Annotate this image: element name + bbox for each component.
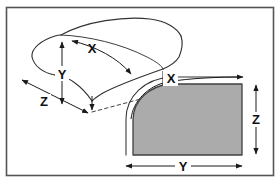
diagram-container: X Y Z X Z Y [0,0,280,182]
flattened-panel-shape [133,84,242,155]
dimension-label-y-flat: Y [179,159,188,174]
dimension-label-x-3d: X [88,41,97,56]
dimension-label-z-3d: Z [40,94,48,109]
dimension-label-y-3d: Y [58,67,67,82]
dimension-label-x-flat: X [167,71,176,86]
dimension-label-z-flat: Z [252,112,260,127]
panel-dimension-diagram: X Y Z X Z Y [0,0,280,182]
